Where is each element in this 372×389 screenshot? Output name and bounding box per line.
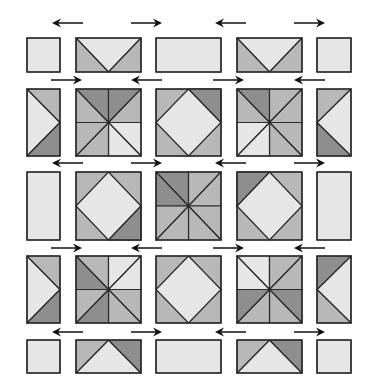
quilt-canvas <box>0 0 372 389</box>
quilt-block-square-in-square <box>156 256 221 323</box>
pressing-arrow-right-icon <box>51 244 82 253</box>
pressing-arrow-right-icon <box>131 159 162 168</box>
pressing-arrow-left-icon <box>215 159 246 168</box>
pressing-arrow-right-icon <box>131 19 162 28</box>
pressing-arrow-right-icon <box>294 19 325 28</box>
quilt-assembly-diagram <box>0 0 372 389</box>
quilt-block-square-in-square <box>156 89 221 156</box>
quilt-block-pinwheel-c <box>156 172 221 240</box>
quilt-block-pinwheel-d <box>76 256 141 323</box>
pressing-arrow-left-icon <box>52 19 83 28</box>
pressing-arrow-right-icon <box>213 244 244 253</box>
quilt-block-plain <box>27 340 60 373</box>
quilt-block-plain <box>317 38 351 72</box>
pressing-arrow-right-icon <box>294 159 325 168</box>
quilt-block-flying-geese-down <box>76 38 141 72</box>
quilt-block-plain <box>317 340 351 373</box>
pressing-arrow-left-icon <box>215 328 246 337</box>
quilt-block-flying-geese-up <box>76 340 141 373</box>
pressing-arrow-right-icon <box>51 76 82 85</box>
quilt-block-side-triangle-left-dark <box>317 256 351 323</box>
pressing-arrow-left-icon <box>294 76 325 85</box>
pressing-arrow-left-icon <box>131 244 162 253</box>
quilt-block-plain <box>27 38 60 72</box>
quilt-block-plain <box>317 172 351 240</box>
quilt-block-pinwheel-e <box>237 256 302 323</box>
quilt-block-plain <box>156 38 221 72</box>
pressing-arrow-left-icon <box>52 328 83 337</box>
quilt-block-plain <box>27 172 60 240</box>
pressing-arrow-right-icon <box>131 328 162 337</box>
quilt-block-side-triangle-right <box>27 256 60 323</box>
quilt-block-pinwheel-b <box>237 89 302 156</box>
quilt-block-side-triangle-left <box>317 89 351 156</box>
quilt-block-pinwheel-a <box>76 89 141 156</box>
quilt-block-square-in-square <box>76 172 141 240</box>
quilt-block-flying-geese-down <box>237 38 302 72</box>
pressing-arrow-left-icon <box>131 76 162 85</box>
quilt-block-square-in-square <box>237 172 302 240</box>
pressing-arrow-right-icon <box>213 76 244 85</box>
pressing-arrow-left-icon <box>215 19 246 28</box>
quilt-block-side-triangle-right <box>27 89 60 156</box>
pressing-arrow-right-icon <box>294 328 325 337</box>
pressing-arrow-left-icon <box>52 159 83 168</box>
pressing-arrow-left-icon <box>294 244 325 253</box>
quilt-block-flying-geese-up <box>237 340 302 373</box>
quilt-block-plain <box>156 340 221 373</box>
